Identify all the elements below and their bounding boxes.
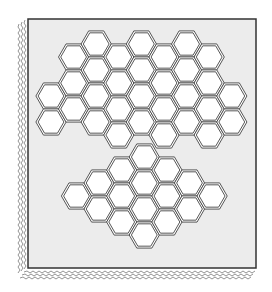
diagram-canvas: [0, 0, 272, 292]
hexagon-diagram: [0, 0, 272, 292]
